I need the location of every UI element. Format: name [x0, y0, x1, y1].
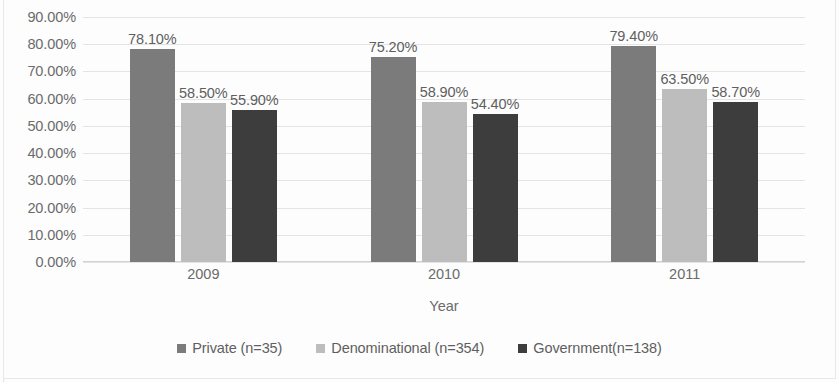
- bar-column: 55.90%: [232, 17, 277, 262]
- bar: 75.20%: [371, 57, 416, 262]
- bar-groups: 78.10%58.50%55.90%75.20%58.90%54.40%79.4…: [83, 17, 805, 262]
- bar-group-bars: 78.10%58.50%55.90%: [83, 17, 324, 262]
- bar-value-label: 58.70%: [711, 84, 760, 100]
- y-axis-tick-label: 40.00%: [0, 145, 76, 161]
- chart-legend: Private (n=35)Denominational (n=354)Gove…: [0, 340, 839, 356]
- bar-column: 58.90%: [422, 17, 467, 262]
- legend-swatch-icon: [316, 344, 325, 353]
- y-axis-tick-label: 80.00%: [0, 36, 76, 52]
- y-axis-tick-label: 90.00%: [0, 9, 76, 25]
- x-axis-tick-label: 2009: [83, 266, 324, 294]
- bar: 55.90%: [232, 110, 277, 262]
- y-axis: 90.00%80.00%70.00%60.00%50.00%40.00%30.0…: [0, 17, 76, 262]
- bar-group-bars: 75.20%58.90%54.40%: [324, 17, 565, 262]
- bar-group: 79.40%63.50%58.70%: [564, 17, 805, 262]
- y-axis-tick-label: 30.00%: [0, 172, 76, 188]
- legend-item[interactable]: Denominational (n=354): [316, 340, 484, 356]
- bar-column: 58.50%: [181, 17, 226, 262]
- legend-swatch-icon: [177, 344, 186, 353]
- bar-column: 75.20%: [371, 17, 416, 262]
- bar-chart: 90.00%80.00%70.00%60.00%50.00%40.00%30.0…: [0, 0, 839, 382]
- y-axis-tick-label: 70.00%: [0, 63, 76, 79]
- bar-value-label: 75.20%: [369, 39, 418, 55]
- x-axis-title: Year: [83, 298, 805, 314]
- bar: 58.50%: [181, 103, 226, 262]
- bar-column: 54.40%: [473, 17, 518, 262]
- y-axis-tick-label: 60.00%: [0, 91, 76, 107]
- bar: 58.70%: [713, 102, 758, 262]
- legend-item[interactable]: Government(n=138): [518, 340, 661, 356]
- bar-column: 78.10%: [130, 17, 175, 262]
- y-axis-tick-label: 50.00%: [0, 118, 76, 134]
- bar: 58.90%: [422, 102, 467, 262]
- legend-label: Government(n=138): [533, 340, 661, 356]
- x-axis-categories: 200920102011: [83, 266, 805, 294]
- x-axis-tick-label: 2011: [564, 266, 805, 294]
- bar: 78.10%: [130, 49, 175, 262]
- bar: 54.40%: [473, 114, 518, 262]
- bar-value-label: 58.50%: [179, 85, 228, 101]
- bar-group: 75.20%58.90%54.40%: [324, 17, 565, 262]
- bar-column: 58.70%: [713, 17, 758, 262]
- bar: 79.40%: [611, 46, 656, 262]
- bar: 63.50%: [662, 89, 707, 262]
- bar-group: 78.10%58.50%55.90%: [83, 17, 324, 262]
- legend-label: Denominational (n=354): [331, 340, 484, 356]
- bar-value-label: 79.40%: [609, 28, 658, 44]
- bar-column: 79.40%: [611, 17, 656, 262]
- legend-swatch-icon: [518, 344, 527, 353]
- y-axis-tick-label: 20.00%: [0, 200, 76, 216]
- y-axis-tick-label: 0.00%: [0, 254, 76, 270]
- bar-value-label: 54.40%: [471, 96, 520, 112]
- x-axis-tick-label: 2010: [324, 266, 565, 294]
- legend-label: Private (n=35): [192, 340, 282, 356]
- bar-value-label: 63.50%: [660, 71, 709, 87]
- bar-value-label: 78.10%: [128, 31, 177, 47]
- bar-column: 63.50%: [662, 17, 707, 262]
- bar-value-label: 58.90%: [420, 84, 469, 100]
- legend-item[interactable]: Private (n=35): [177, 340, 282, 356]
- bar-group-bars: 79.40%63.50%58.70%: [564, 17, 805, 262]
- gridline: [83, 262, 805, 263]
- y-axis-tick-label: 10.00%: [0, 227, 76, 243]
- bar-value-label: 55.90%: [230, 92, 279, 108]
